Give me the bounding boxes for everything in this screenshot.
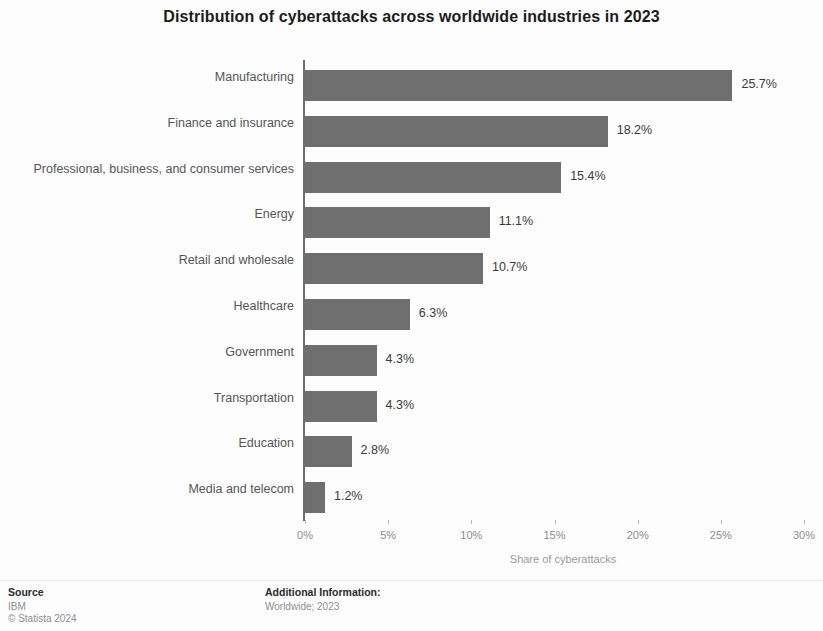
bar-value-label: 15.4% xyxy=(570,169,605,183)
category-label: Energy xyxy=(0,207,294,221)
category-label: Retail and wholesale xyxy=(0,253,294,267)
category-label: Transportation xyxy=(0,391,294,405)
source-name: IBM xyxy=(8,601,77,613)
bar-value-label: 2.8% xyxy=(361,443,390,457)
x-tick-mark xyxy=(638,520,639,524)
bar-row: Media and telecom1.2% xyxy=(0,475,823,521)
x-tick-mark xyxy=(305,520,306,524)
category-label: Professional, business, and consumer ser… xyxy=(0,162,294,176)
source-heading: Source xyxy=(8,586,77,598)
additional-information-heading: Additional Information: xyxy=(265,586,381,598)
x-tick-label: 30% xyxy=(793,529,815,541)
bar-row: Finance and insurance18.2% xyxy=(0,109,823,155)
bar-value-label: 4.3% xyxy=(386,398,415,412)
footer-divider xyxy=(0,580,823,581)
bar[interactable] xyxy=(305,253,483,284)
bar-row: Government4.3% xyxy=(0,338,823,384)
bar-row: Professional, business, and consumer ser… xyxy=(0,155,823,201)
bar-value-label: 11.1% xyxy=(499,214,534,228)
bar[interactable] xyxy=(305,299,410,330)
x-tick-mark xyxy=(388,520,389,524)
bar[interactable] xyxy=(305,436,352,467)
x-axis: 0%5%10%15%20%25%30% Share of cyberattack… xyxy=(0,520,823,580)
x-tick-label: 20% xyxy=(627,529,649,541)
bar-value-label: 18.2% xyxy=(617,123,652,137)
category-label: Media and telecom xyxy=(0,482,294,496)
additional-information-block: Additional Information: Worldwide; 2023 xyxy=(265,586,381,613)
category-label: Government xyxy=(0,345,294,359)
x-tick-label: 25% xyxy=(710,529,732,541)
chart-figure: Distribution of cyberattacks across worl… xyxy=(0,0,823,631)
bar[interactable] xyxy=(305,207,490,238)
bar-value-label: 1.2% xyxy=(334,489,363,503)
bar-value-label: 25.7% xyxy=(741,77,776,91)
bar-row: Education2.8% xyxy=(0,429,823,475)
additional-information-scope: Worldwide; 2023 xyxy=(265,601,381,613)
bar-row: Retail and wholesale10.7% xyxy=(0,246,823,292)
bar-value-label: 6.3% xyxy=(419,306,448,320)
source-copyright: © Statista 2024 xyxy=(8,613,77,625)
x-tick-mark xyxy=(555,520,556,524)
x-tick-mark xyxy=(471,520,472,524)
bar[interactable] xyxy=(305,116,608,147)
x-tick-label: 5% xyxy=(380,529,396,541)
bar[interactable] xyxy=(305,482,325,513)
bar[interactable] xyxy=(305,345,377,376)
x-tick-mark xyxy=(804,520,805,524)
bar[interactable] xyxy=(305,162,561,193)
x-tick-label: 15% xyxy=(543,529,565,541)
category-label: Finance and insurance xyxy=(0,116,294,130)
source-block: Source IBM © Statista 2024 xyxy=(8,586,77,625)
category-label: Healthcare xyxy=(0,299,294,313)
chart-footer: Source IBM © Statista 2024 Additional In… xyxy=(0,586,823,631)
bar-row: Transportation4.3% xyxy=(0,384,823,430)
category-label: Manufacturing xyxy=(0,70,294,84)
bar-value-label: 10.7% xyxy=(492,260,527,274)
bar[interactable] xyxy=(305,70,732,101)
x-tick-label: 0% xyxy=(297,529,313,541)
bar-row: Healthcare6.3% xyxy=(0,292,823,338)
x-axis-label: Share of cyberattacks xyxy=(303,553,823,565)
bar[interactable] xyxy=(305,391,377,422)
bar-row: Manufacturing25.7% xyxy=(0,63,823,109)
category-label: Education xyxy=(0,436,294,450)
x-tick-label: 10% xyxy=(460,529,482,541)
bar-row: Energy11.1% xyxy=(0,200,823,246)
bar-value-label: 4.3% xyxy=(386,352,415,366)
x-tick-mark xyxy=(721,520,722,524)
